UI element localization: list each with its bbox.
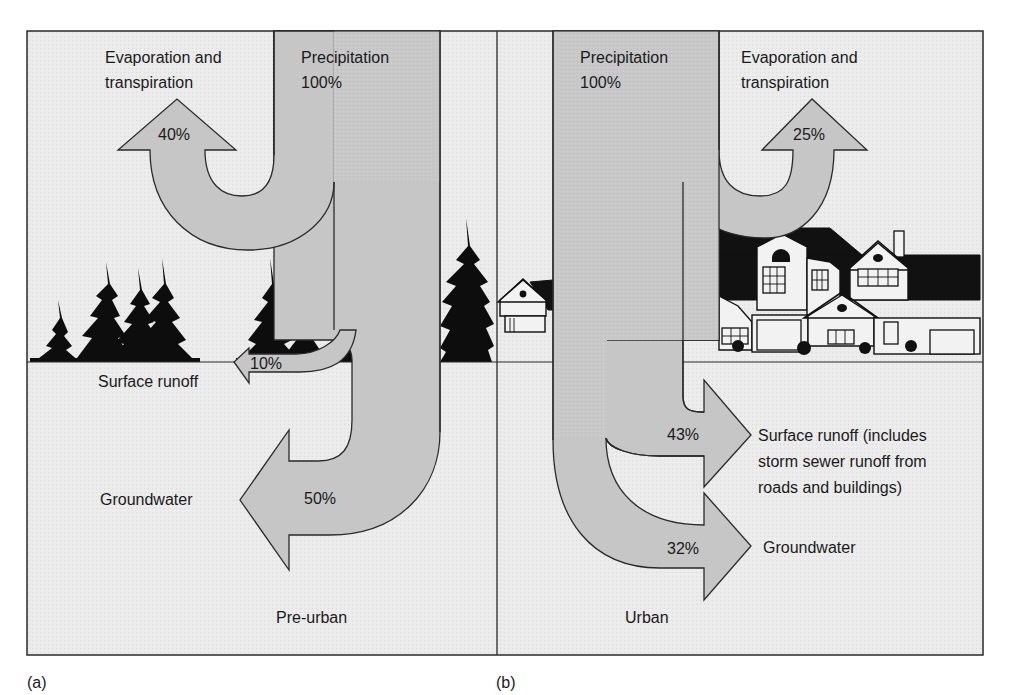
panel-caption-b: Urban — [625, 609, 669, 626]
surface-runoff-value-b: 43% — [667, 426, 699, 443]
precipitation-value-b: 100% — [580, 74, 621, 91]
groundwater-label-b: Groundwater — [763, 539, 856, 556]
evapotranspiration-label-b-line1: Evaporation and — [741, 49, 858, 66]
evapotranspiration-label-a-line1: Evaporation and — [105, 49, 222, 66]
precipitation-value-a: 100% — [301, 74, 342, 91]
panel-caption-a: Pre-urban — [276, 609, 347, 626]
groundwater-value-b: 32% — [667, 540, 699, 557]
evapotranspiration-label-b-line2: transpiration — [741, 74, 829, 91]
surface-runoff-label-b-line2: storm sewer runoff from — [758, 453, 927, 470]
surface-runoff-label-a: Surface runoff — [98, 373, 199, 390]
surface-runoff-label-b-line1: Surface runoff (includes — [758, 427, 927, 444]
evapotranspiration-value-a: 40% — [158, 126, 190, 143]
water-balance-diagram: Evaporation and transpiration 40% Precip… — [0, 0, 1013, 695]
panel-letter-a: (a) — [27, 674, 47, 691]
groundwater-label-a: Groundwater — [100, 491, 193, 508]
precipitation-label-b: Precipitation — [580, 49, 668, 66]
evapotranspiration-value-b: 25% — [793, 126, 825, 143]
surface-runoff-label-b-line3: roads and buildings) — [758, 479, 902, 496]
groundwater-value-a: 50% — [304, 490, 336, 507]
panel-letter-b: (b) — [496, 674, 516, 691]
evapotranspiration-label-a-line2: transpiration — [105, 74, 193, 91]
surface-runoff-value-a: 10% — [250, 355, 282, 372]
precipitation-label-a: Precipitation — [301, 49, 389, 66]
